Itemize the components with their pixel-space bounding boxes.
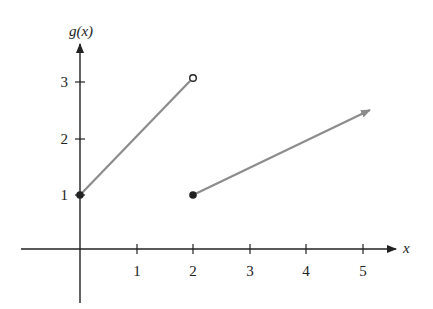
x-tick-label-5: 5 — [359, 263, 367, 279]
x-axis-label: x — [402, 240, 410, 256]
x-tick-label-4: 4 — [302, 263, 310, 279]
open-dot-2-3 — [190, 75, 197, 82]
segment-piece-1 — [80, 81, 190, 195]
ray-piece-2 — [193, 110, 370, 195]
y-tick-label-3: 3 — [61, 74, 69, 90]
x-tick-label-1: 1 — [133, 263, 141, 279]
y-tick-label-1: 1 — [61, 187, 69, 203]
x-tick-label-3: 3 — [246, 263, 254, 279]
y-tick-label-2: 2 — [61, 131, 69, 147]
graph-of-g: 1 2 3 4 5 1 2 3 g(x) x — [0, 0, 433, 309]
closed-dot-0-1 — [76, 191, 84, 199]
y-axis-label: g(x) — [69, 23, 93, 40]
x-tick-label-2: 2 — [189, 263, 197, 279]
closed-dot-2-1 — [189, 191, 197, 199]
